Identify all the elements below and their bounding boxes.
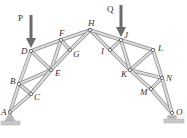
- member-ij: [110, 40, 121, 50]
- node-label-b: B: [10, 76, 16, 86]
- node-k: [128, 68, 131, 71]
- node-o: [170, 111, 173, 114]
- node-i: [108, 48, 111, 51]
- node-label-k: K: [120, 69, 128, 79]
- node-n: [160, 76, 163, 79]
- node-c: [29, 92, 32, 95]
- node-label-e: E: [54, 68, 61, 78]
- node-label-m: M: [139, 87, 148, 97]
- member-de: [31, 51, 51, 70]
- node-a: [8, 110, 11, 113]
- node-j: [119, 38, 122, 41]
- member-jl: [121, 40, 153, 50]
- node-label-n: N: [165, 73, 173, 83]
- member-mn: [151, 78, 162, 89]
- node-b: [17, 82, 20, 85]
- node-label-a: A: [0, 107, 7, 117]
- node-label-h: H: [87, 18, 95, 28]
- node-m: [149, 87, 152, 90]
- node-label-c: C: [34, 92, 41, 102]
- node-h: [88, 28, 91, 31]
- member-ln: [153, 50, 162, 78]
- member-kl: [130, 50, 153, 70]
- node-l: [151, 48, 154, 51]
- member-bc: [19, 84, 31, 94]
- node-label-l: L: [157, 43, 163, 53]
- node-e: [49, 68, 52, 71]
- supports: [1, 112, 184, 125]
- node-label-o: O: [176, 107, 183, 117]
- node-label-g: G: [73, 49, 80, 59]
- load-p: P: [18, 13, 36, 48]
- node-label-d: D: [20, 46, 28, 56]
- node-label-i: I: [100, 46, 105, 56]
- load-q-label: Q: [107, 4, 114, 14]
- loads: P Q: [18, 4, 126, 48]
- load-p-label: P: [18, 13, 23, 23]
- node-label-f: F: [58, 28, 65, 38]
- node-f: [59, 38, 62, 41]
- node-d: [29, 49, 32, 52]
- node-label-j: J: [124, 30, 129, 40]
- node-g: [68, 48, 71, 51]
- member-fg: [61, 40, 70, 50]
- truss-diagram: P Q ABCDEFGHIJKLMNO: [0, 0, 187, 138]
